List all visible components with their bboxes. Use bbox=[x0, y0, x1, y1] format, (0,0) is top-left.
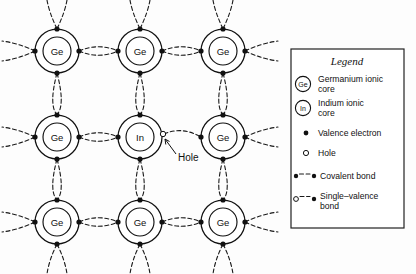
bond-stub-right bbox=[245, 41, 278, 232]
hole-annotation-label: Hole bbox=[178, 152, 199, 163]
valence-electron-icon bbox=[220, 70, 225, 75]
atom-label: Ge bbox=[134, 217, 147, 228]
valence-electron-icon bbox=[242, 134, 247, 139]
valence-electron-icon bbox=[32, 219, 37, 224]
valence-electron-icon bbox=[137, 156, 142, 161]
valence-electron-icon bbox=[54, 70, 59, 75]
atom-node-indium: In bbox=[115, 112, 165, 161]
atom-label: Ge bbox=[217, 132, 230, 143]
valence-electron-icon bbox=[32, 134, 37, 139]
legend-item-label-line2: core bbox=[318, 108, 335, 118]
legend-item-label-line1: Single–valence bbox=[320, 191, 379, 201]
bond-stub-top bbox=[47, 0, 233, 29]
valence-electron-icon bbox=[54, 112, 59, 117]
bond-stub-bottom bbox=[47, 244, 233, 274]
atom-label: Ge bbox=[51, 132, 64, 143]
atom-node: Ge bbox=[32, 26, 81, 75]
valence-electron-icon bbox=[54, 26, 59, 31]
valence-electron-icon bbox=[220, 156, 225, 161]
hole-icon bbox=[303, 150, 308, 155]
valence-electron-icon bbox=[198, 134, 203, 139]
legend-panel: Legend Ge Germanium ionic core In Indium… bbox=[291, 49, 404, 228]
atom-node: Ge bbox=[198, 112, 247, 161]
atom-node: Ge bbox=[32, 112, 81, 161]
valence-electron-icon bbox=[54, 241, 59, 246]
germanium-core-icon-label: Ge bbox=[298, 81, 307, 88]
hole-icon bbox=[160, 131, 165, 136]
indium-core-icon-label: In bbox=[300, 105, 306, 112]
single-valence-bond bbox=[164, 131, 201, 137]
hole-annotation: Hole bbox=[165, 139, 199, 163]
valence-electron-icon bbox=[242, 219, 247, 224]
legend-item-label-line1: Germanium ionic bbox=[318, 74, 384, 84]
valence-electron-icon bbox=[137, 197, 142, 202]
atom-node: Ge bbox=[115, 197, 164, 246]
atom-layer: Ge Ge Ge bbox=[32, 26, 247, 246]
valence-electron-icon bbox=[242, 48, 247, 53]
atom-label: Ge bbox=[51, 217, 64, 228]
valence-electron-icon bbox=[304, 131, 309, 136]
valence-electron-icon bbox=[159, 48, 164, 53]
atom-node: Ge bbox=[198, 197, 247, 246]
valence-electron-icon bbox=[137, 241, 142, 246]
atom-label: Ge bbox=[51, 46, 64, 57]
legend-item-label-line1: Covalent bond bbox=[320, 171, 376, 181]
legend-item-label-line1: Hole bbox=[318, 148, 336, 158]
legend-title: Legend bbox=[330, 55, 364, 67]
legend-item-label-line1: Valence electron bbox=[318, 128, 382, 138]
valence-electron-icon bbox=[115, 219, 120, 224]
legend-item-label-line2: bond bbox=[320, 201, 339, 211]
valence-electron-icon bbox=[76, 219, 81, 224]
atom-label: In bbox=[136, 132, 144, 143]
valence-electron-icon bbox=[159, 219, 164, 224]
valence-electron-icon bbox=[220, 26, 225, 31]
valence-electron-icon bbox=[76, 134, 81, 139]
bond-stub-left bbox=[2, 41, 35, 232]
valence-electron-icon bbox=[115, 134, 120, 139]
valence-electron-icon bbox=[220, 241, 225, 246]
legend-item-label-line1: Indium ionic bbox=[318, 98, 365, 108]
atom-label: Ge bbox=[217, 46, 230, 57]
legend-item-label-line2: core bbox=[318, 84, 335, 94]
figure-canvas: Ge Ge Ge bbox=[0, 0, 416, 274]
lattice-diagram: Ge Ge Ge bbox=[0, 0, 416, 274]
bond-horizontal bbox=[79, 133, 118, 142]
valence-electron-icon bbox=[115, 48, 120, 53]
valence-electron-icon bbox=[32, 48, 37, 53]
atom-label: Ge bbox=[134, 46, 147, 57]
valence-electron-icon bbox=[220, 197, 225, 202]
valence-electron-icon bbox=[137, 26, 142, 31]
valence-electron-icon bbox=[137, 70, 142, 75]
valence-electron-icon bbox=[220, 112, 225, 117]
valence-electron-icon bbox=[198, 48, 203, 53]
atom-label: Ge bbox=[217, 217, 230, 228]
valence-electron-icon bbox=[76, 48, 81, 53]
valence-electron-icon bbox=[54, 156, 59, 161]
atom-node: Ge bbox=[198, 26, 247, 75]
atom-node: Ge bbox=[32, 197, 81, 246]
valence-electron-icon bbox=[137, 112, 142, 117]
valence-electron-icon bbox=[198, 219, 203, 224]
valence-electron-icon bbox=[54, 197, 59, 202]
atom-node: Ge bbox=[115, 26, 164, 75]
